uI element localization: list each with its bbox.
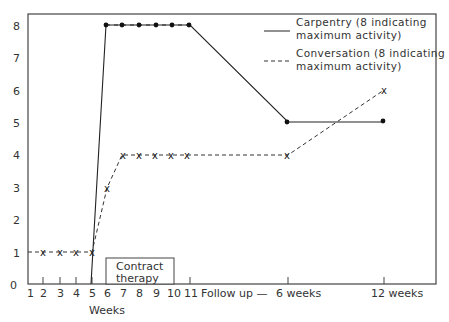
y-tick-8: 8 (13, 20, 20, 33)
x-tick-5: 5 (89, 287, 96, 300)
x-tick-8: 8 (136, 287, 143, 300)
svg-text:x: x (184, 150, 190, 161)
y-tick-7: 7 (13, 52, 20, 65)
svg-text:x: x (73, 247, 79, 258)
follow-up-label: Follow up — (201, 287, 267, 300)
x-tick-10: 10 (167, 287, 181, 300)
svg-text:x: x (104, 183, 110, 194)
svg-text:x: x (40, 247, 46, 258)
line-chart: 0 1 2 3 4 5 6 7 8 1 2 3 4 5 6 7 8 9 10 1… (0, 0, 449, 322)
legend-carpentry-label-2: maximum activity) (296, 29, 402, 41)
x-tick-12-weeks: 12 weeks (371, 287, 423, 300)
y-tick-4: 4 (13, 149, 20, 162)
x-tick-7: 7 (120, 287, 127, 300)
y-tick-1: 1 (13, 247, 20, 260)
x-tick-11: 11 (184, 287, 198, 300)
svg-text:x: x (284, 150, 290, 161)
y-tick-6: 6 (13, 85, 20, 98)
svg-text:x: x (57, 247, 63, 258)
y-tick-0: 0 (10, 279, 17, 292)
svg-text:x: x (120, 150, 126, 161)
x-tick-2: 2 (40, 287, 47, 300)
x-axis-title: Weeks (89, 304, 125, 317)
x-axis-labels: 1 2 3 4 5 6 7 8 9 10 11 Follow up — 6 we… (27, 287, 423, 317)
x-tick-4: 4 (73, 287, 80, 300)
legend-carpentry-label: Carpentry (8 indicating (296, 16, 427, 28)
svg-text:x: x (152, 150, 158, 161)
series-conversation: x x x x x x x x x x x x (28, 85, 387, 258)
svg-text:x: x (89, 247, 95, 258)
contract-therapy-annotation: Contract therapy (106, 258, 174, 285)
svg-text:x: x (168, 150, 174, 161)
x-tick-9: 9 (153, 287, 160, 300)
x-axis-ticks (43, 277, 384, 284)
x-tick-3: 3 (57, 287, 64, 300)
legend: Carpentry (8 indicating maximum activity… (264, 16, 445, 72)
svg-text:x: x (381, 85, 387, 96)
annotation-line2: therapy (116, 272, 159, 285)
x-tick-1: 1 (27, 287, 34, 300)
legend-conversation-label: Conversation (8 indicating (296, 47, 445, 59)
y-tick-2: 2 (13, 214, 20, 227)
x-tick-6: 6 (104, 287, 111, 300)
x-tick-6-weeks: 6 weeks (276, 287, 321, 300)
y-tick-5: 5 (13, 117, 20, 130)
svg-text:x: x (136, 150, 142, 161)
y-tick-3: 3 (13, 182, 20, 195)
legend-conversation-label-2: maximum activity) (296, 60, 402, 72)
y-axis-labels: 0 1 2 3 4 5 6 7 8 (10, 20, 20, 292)
